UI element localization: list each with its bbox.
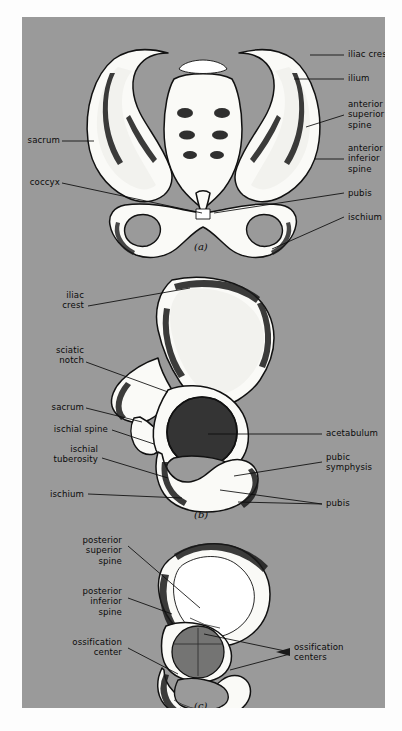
pelvis-anterior-illustration	[22, 17, 385, 257]
label-sciatic-notch-b: sciatic notch	[22, 345, 84, 366]
label-ischial-tuberosity-b: ischial tuberosity	[22, 444, 98, 465]
label-ischium-b: ischium	[22, 489, 84, 499]
label-pubis-b: pubis	[326, 498, 385, 508]
label-ilium-a: ilium	[348, 73, 385, 83]
label-ischium-a: ischium	[348, 212, 385, 222]
label-ossification-centers-c: ossification centers	[294, 642, 378, 663]
panel-b: iliac crest sciatic notch sacrum ischial…	[22, 262, 385, 507]
label-iliac-crest-a: iliac crest	[348, 49, 385, 59]
caption-b: (b)	[194, 509, 208, 520]
anatomy-figure-plate: sacrum coccyx iliac crest ilium anterior…	[22, 17, 385, 708]
label-posterior-superior-spine-c: posterior superior spine	[22, 535, 122, 566]
label-coccyx-a: coccyx	[22, 177, 60, 187]
label-pubic-symphysis-b: pubic symphysis	[326, 452, 385, 473]
caption-a: (a)	[194, 241, 208, 252]
panel-c: posterior superior spine posterior infer…	[22, 522, 385, 708]
label-ischial-spine-b: ischial spine	[22, 424, 108, 434]
label-iliac-crest-b: iliac crest	[22, 290, 84, 311]
label-sacrum-b: sacrum	[22, 402, 84, 412]
label-pubis-a: pubis	[348, 188, 385, 198]
caption-c: (c)	[194, 700, 207, 708]
label-anterior-inferior-spine-a: anterior inferior spine	[348, 143, 385, 174]
panel-a: sacrum coccyx iliac crest ilium anterior…	[22, 17, 385, 257]
label-sacrum-a: sacrum	[22, 135, 60, 145]
label-posterior-inferior-spine-c: posterior inferior spine	[22, 586, 122, 617]
label-acetabulum-b: acetabulum	[326, 428, 385, 438]
label-ossification-center-c: ossification center	[22, 637, 122, 658]
label-anterior-superior-spine-a: anterior superior spine	[348, 99, 385, 130]
